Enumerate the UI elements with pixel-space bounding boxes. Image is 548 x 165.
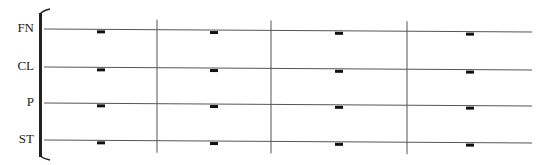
whole-rest-icon	[210, 142, 218, 145]
whole-rest-icon	[335, 143, 343, 146]
system-bracket-icon	[39, 9, 50, 160]
staff-line	[44, 103, 532, 106]
whole-rest-icon	[466, 144, 474, 147]
whole-rest-icon	[466, 33, 474, 36]
whole-rest-icon	[335, 32, 343, 35]
whole-rest-icon	[97, 68, 105, 71]
whole-rest-icon	[466, 71, 474, 74]
staff-line	[44, 29, 532, 32]
barlines	[157, 20, 407, 155]
whole-rests	[97, 30, 474, 146]
whole-rest-icon	[97, 141, 105, 144]
staff-line	[44, 67, 532, 70]
music-score: FN CL P ST	[0, 0, 548, 165]
whole-rest-icon	[97, 104, 105, 107]
staff-line	[44, 140, 532, 143]
whole-rest-icon	[210, 31, 218, 34]
whole-rest-icon	[335, 106, 343, 109]
whole-rest-icon	[210, 69, 218, 72]
whole-rest-icon	[335, 70, 343, 73]
staff-system	[0, 0, 548, 165]
whole-rest-icon	[97, 30, 105, 33]
staff-lines	[44, 29, 532, 143]
whole-rest-icon	[466, 107, 474, 110]
whole-rest-icon	[210, 105, 218, 108]
